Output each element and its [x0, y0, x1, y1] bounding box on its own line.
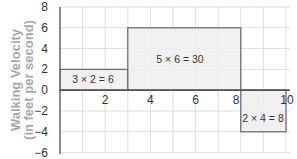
- svg-text:−6: −6: [34, 146, 48, 159]
- annotation-segment-2: 5 × 6 = 30: [156, 53, 203, 65]
- annotation-segment-1: 3 × 2 = 6: [72, 73, 114, 85]
- y-axis-label: Walking Velocity (in feet per second): [8, 20, 36, 140]
- svg-text:2: 2: [102, 93, 109, 107]
- svg-text:0: 0: [41, 83, 48, 97]
- svg-text:4: 4: [147, 93, 154, 107]
- y-tick-labels: 8 6 4 2 0 −2 −4 −6: [34, 0, 48, 159]
- annotation-segment-3: 2 × 4 = 8: [242, 112, 284, 124]
- svg-text:(in feet per second): (in feet per second): [21, 20, 36, 140]
- svg-text:8: 8: [233, 93, 240, 107]
- svg-text:8: 8: [41, 0, 48, 14]
- velocity-chart: 8 6 4 2 0 −2 −4 −6 2 4 6 8 10 Walking Ve…: [0, 0, 297, 159]
- bar-segment-3: [241, 90, 286, 132]
- svg-text:6: 6: [192, 93, 199, 107]
- svg-text:4: 4: [41, 42, 48, 56]
- svg-text:−4: −4: [34, 125, 48, 139]
- svg-text:6: 6: [41, 21, 48, 35]
- svg-text:2: 2: [41, 62, 48, 76]
- svg-text:10: 10: [280, 93, 294, 107]
- svg-text:−2: −2: [34, 104, 48, 118]
